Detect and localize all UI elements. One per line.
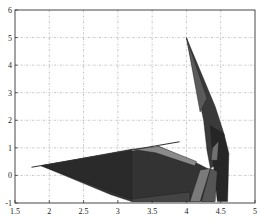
y-tick-label: 2 [8, 116, 12, 125]
surface-chart: 1.522.533.544.55 -10123456 [0, 0, 264, 221]
rear-left-wedge-face [41, 149, 132, 199]
x-tick-label: 2.5 [79, 207, 89, 216]
spike-highlight-face [186, 38, 207, 112]
y-tick-label: 6 [8, 6, 12, 15]
x-axis-ticks: 1.522.533.544.55 [10, 200, 257, 216]
y-tick-label: 4 [8, 61, 12, 70]
x-tick-label: 2 [47, 207, 51, 216]
y-axis-ticks: -10123456 [5, 6, 18, 208]
x-tick-label: 1.5 [10, 207, 20, 216]
x-tick-label: 3 [116, 207, 120, 216]
y-tick-label: 5 [8, 34, 12, 43]
x-tick-label: 4 [184, 207, 188, 216]
y-tick-label: 0 [8, 171, 12, 180]
x-tick-label: 5 [253, 207, 257, 216]
x-tick-label: 3.5 [147, 207, 157, 216]
x-tick-label: 4.5 [216, 207, 226, 216]
y-tick-label: 1 [8, 144, 12, 153]
y-tick-label: -1 [5, 199, 12, 208]
y-tick-label: 3 [8, 89, 12, 98]
surface-polygons [41, 38, 229, 202]
